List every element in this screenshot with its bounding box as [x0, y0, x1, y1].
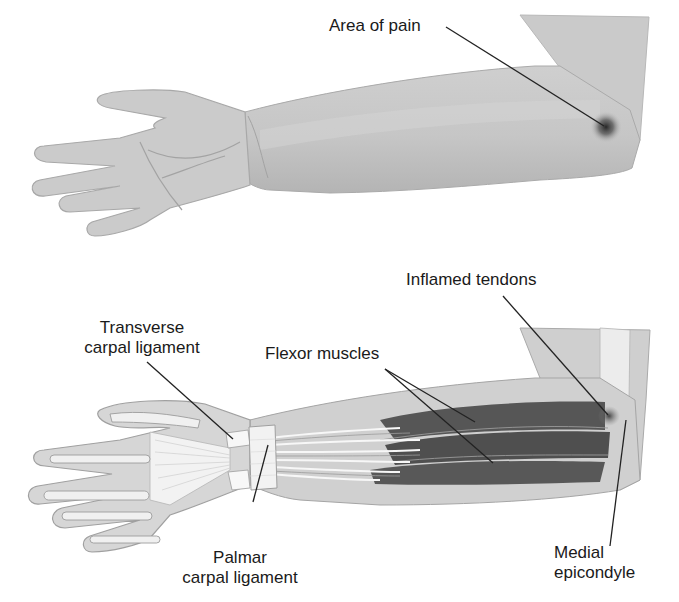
label-line: epicondyle	[554, 563, 635, 583]
label-line: Medial	[554, 543, 635, 563]
surface-arm	[32, 15, 649, 236]
palmar-carpal-ligament	[249, 425, 277, 490]
label-line: Palmar	[165, 548, 315, 568]
label-inflamed-tendons: Inflamed tendons	[406, 270, 536, 290]
inflamed-tendon-spot	[598, 406, 620, 426]
illustration	[0, 0, 679, 602]
pain-spot	[590, 111, 622, 143]
label-line: Transverse	[62, 318, 222, 338]
label-line: carpal ligament	[62, 338, 222, 358]
label-transverse-carpal-ligament: Transverse carpal ligament	[62, 318, 222, 358]
label-area-of-pain: Area of pain	[329, 16, 421, 36]
label-palmar-carpal-ligament: Palmar carpal ligament	[165, 548, 315, 588]
anatomy-figure: Area of pain Transverse carpal ligament …	[0, 0, 679, 602]
label-line: carpal ligament	[165, 568, 315, 588]
transverse-carpal-ligament	[226, 430, 250, 448]
label-flexor-muscles: Flexor muscles	[265, 344, 379, 364]
label-medial-epicondyle: Medial epicondyle	[554, 543, 635, 583]
